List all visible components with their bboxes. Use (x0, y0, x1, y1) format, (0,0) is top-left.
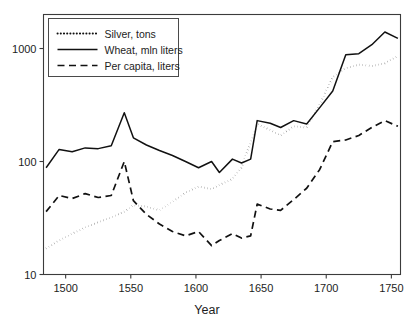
x-axis-title: Year (194, 303, 219, 317)
x-tick-label-1700: 1700 (314, 282, 338, 294)
x-tick-label-1750: 1750 (379, 282, 403, 294)
y-tick-label-1000: 1000 (12, 43, 36, 55)
legend: Silver, tonsWheat, mln litersPer capita,… (49, 19, 183, 77)
x-tick-label-1500: 1500 (53, 282, 77, 294)
y-tick-label-10: 10 (24, 269, 36, 281)
legend-label-silver-tons: Silver, tons (105, 28, 156, 40)
chart-container: 101001000 150015501600165017001750 Year … (0, 0, 414, 326)
legend-label-wheat-mln-liters: Wheat, mln liters (105, 44, 183, 56)
legend-label-per-capita-liters: Per capita, liters (105, 60, 180, 72)
x-tick-label-1600: 1600 (184, 282, 208, 294)
line-chart: 101001000 150015501600165017001750 Year … (0, 0, 414, 326)
x-tick-label-1550: 1550 (119, 282, 143, 294)
y-tick-label-100: 100 (18, 156, 36, 168)
x-tick-label-1650: 1650 (249, 282, 273, 294)
